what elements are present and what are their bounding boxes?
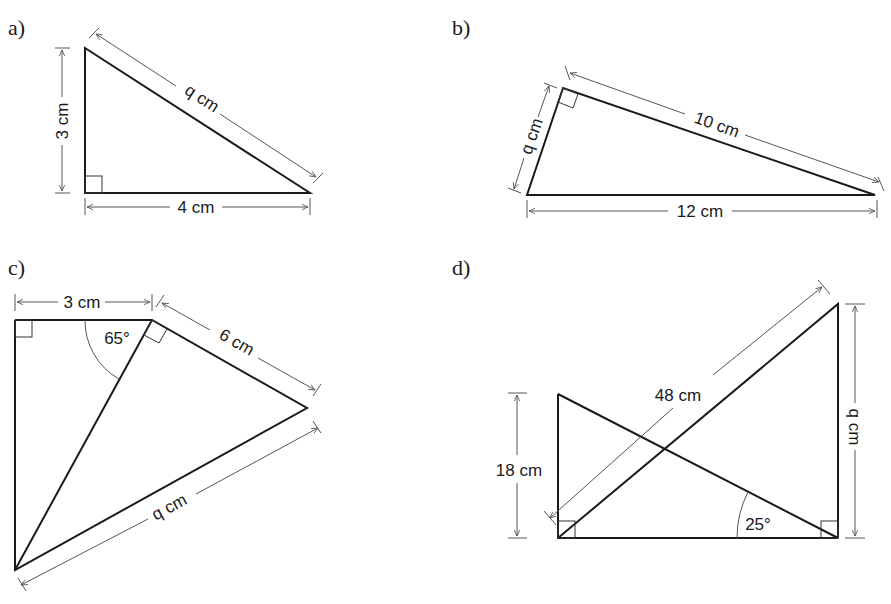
figure-label-d: d) (452, 255, 470, 280)
figure-b: b) 12 cm 10 cm q cm (452, 15, 884, 221)
right-angle-marker (15, 320, 32, 337)
dim-label: 10 cm (692, 108, 742, 141)
right-angle-marker (85, 176, 102, 193)
dim-label: 48 cm (655, 386, 701, 405)
quadrilateral-c (15, 320, 307, 570)
dim-label: q cm (845, 409, 864, 446)
figure-d: d) 25° 18 cm q cm 48 cm (452, 255, 865, 538)
dim-label: 3 cm (53, 103, 72, 140)
dim-label: 6 cm (216, 325, 257, 360)
dim-label: q cm (149, 490, 190, 524)
triangle-b (527, 88, 875, 195)
figure-a: a) 3 cm 4 cm q cm (8, 15, 323, 217)
figure-c: c) 65° 3 cm 6 cm q cm (8, 255, 321, 591)
figure-label-a: a) (8, 15, 25, 40)
dim-label: 4 cm (178, 198, 215, 217)
angle-label: 65° (104, 329, 130, 348)
angle-label: 25° (745, 515, 771, 534)
figure-label-b: b) (452, 15, 470, 40)
dim-label: 3 cm (64, 293, 101, 312)
diagram-canvas: a) 3 cm 4 cm q cm b) 12 cm (0, 0, 891, 604)
dim-label: q cm (181, 80, 222, 116)
dim-label: 12 cm (677, 202, 723, 221)
dim-label: 18 cm (496, 461, 542, 480)
triangle-d-right (558, 304, 838, 538)
right-angle-marker (144, 320, 167, 343)
triangle-d-left (558, 394, 838, 538)
figure-label-c: c) (8, 255, 25, 280)
triangle-a (85, 48, 310, 193)
